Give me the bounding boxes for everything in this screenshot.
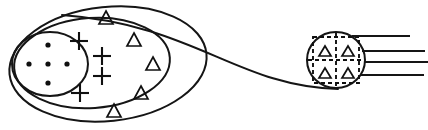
triangle-marker bbox=[319, 46, 331, 56]
plus-marker bbox=[70, 32, 88, 50]
dot-marker bbox=[45, 42, 50, 47]
dot-marker bbox=[45, 61, 50, 66]
dashed-partition-grid bbox=[308, 33, 364, 87]
diagram-canvas: Nested set diagram with mapping to parti… bbox=[0, 0, 428, 130]
triangle-marker bbox=[342, 46, 354, 56]
dot-markers bbox=[26, 42, 69, 85]
plus-marker bbox=[93, 47, 111, 65]
dot-marker bbox=[26, 61, 31, 66]
plus-markers bbox=[70, 32, 111, 102]
target-region bbox=[307, 32, 365, 88]
plus-marker bbox=[71, 84, 89, 102]
outer-ellipse bbox=[4, 0, 213, 130]
triangle-marker bbox=[319, 68, 331, 78]
dot-marker bbox=[64, 61, 69, 66]
triangle-marker bbox=[146, 57, 160, 70]
plus-marker bbox=[93, 67, 111, 85]
source-ellipse-group bbox=[4, 0, 213, 130]
middle-ellipse bbox=[11, 13, 173, 114]
diagram-figure: Nested set diagram with mapping to parti… bbox=[0, 0, 428, 130]
triangle-marker bbox=[127, 33, 141, 46]
triangle-marker bbox=[342, 68, 354, 78]
dot-marker bbox=[45, 80, 50, 85]
